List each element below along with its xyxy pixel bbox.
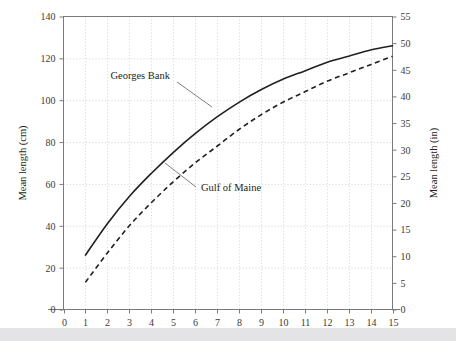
tick-label-y-left: 120	[41, 53, 56, 64]
tick-label-x: 10	[279, 317, 289, 328]
tick-label-y-left: 100	[41, 95, 56, 106]
tick-label-y-left: 0	[51, 304, 56, 315]
tick-label-x: 6	[193, 317, 198, 328]
tick-label-y-right: 25	[401, 171, 411, 182]
tick-label-y-right: 50	[401, 38, 411, 49]
tick-label-y-right: 45	[401, 65, 411, 76]
tick-label-x: 15	[389, 317, 399, 328]
x-axis-ticks	[65, 310, 394, 314]
tick-label-x: 12	[323, 317, 333, 328]
series-label-georges-bank: Georges Bank	[110, 70, 170, 81]
y-axis-right-ticks	[393, 17, 397, 310]
tick-label-y-left: 60	[46, 179, 56, 190]
tick-label-x: 13	[345, 317, 355, 328]
tick-label-x: 3	[127, 317, 132, 328]
vertical-gridlines	[86, 17, 372, 310]
tick-label-y-right: 0	[401, 304, 406, 315]
tick-label-y-right: 5	[401, 278, 406, 289]
tick-label-y-right: 10	[401, 251, 411, 262]
tick-label-x: 5	[171, 317, 176, 328]
tick-label-y-left: 20	[46, 263, 56, 274]
tick-label-x: 2	[105, 317, 110, 328]
tick-label-y-right: 30	[401, 145, 411, 156]
series-label-gulf-of-maine: Gulf of Maine	[201, 182, 261, 193]
tick-label-y-right: 55	[401, 11, 411, 22]
y-axis-left-tick-labels: 020406080100120140	[41, 11, 56, 315]
x-axis-tick-labels: 0123456789101112131415	[62, 317, 399, 328]
tick-label-x: 8	[237, 317, 242, 328]
tick-label-x: 4	[149, 317, 154, 328]
tick-label-y-right: 15	[401, 224, 411, 235]
tick-label-x: 11	[301, 317, 311, 328]
tick-label-y-right: 40	[401, 91, 411, 102]
tick-label-x: 0	[62, 317, 67, 328]
plot-frame	[48, 16, 400, 310]
data-series-group	[85, 46, 392, 282]
series-line-gulf-of-maine	[85, 56, 392, 282]
tick-label-y-right: 35	[401, 118, 411, 129]
tick-label-y-left: 140	[41, 11, 56, 22]
horizontal-gridlines	[64, 59, 393, 268]
tick-label-y-left: 80	[46, 137, 56, 148]
chart-figure: 020406080100120140 051015202530354045505…	[0, 0, 456, 341]
footer-band	[0, 328, 456, 341]
series-annotations: Georges Bank Gulf of Maine	[110, 70, 261, 193]
tick-label-y-right: 20	[401, 198, 411, 209]
tick-label-x: 9	[259, 317, 264, 328]
tick-label-y-left: 40	[46, 221, 56, 232]
tick-label-x: 1	[83, 317, 88, 328]
growth-curve-chart: 020406080100120140 051015202530354045505…	[0, 0, 456, 341]
y-axis-left-title: Mean length (cm)	[17, 125, 29, 201]
tick-label-x: 14	[367, 317, 377, 328]
y-axis-left-ticks	[60, 17, 64, 310]
tick-label-x: 7	[215, 317, 220, 328]
y-axis-right-title: Mean length (in)	[428, 127, 440, 198]
leader-line-georges-bank	[177, 82, 212, 107]
y-axis-right-tick-labels: 0510152025303540455055	[401, 11, 411, 315]
